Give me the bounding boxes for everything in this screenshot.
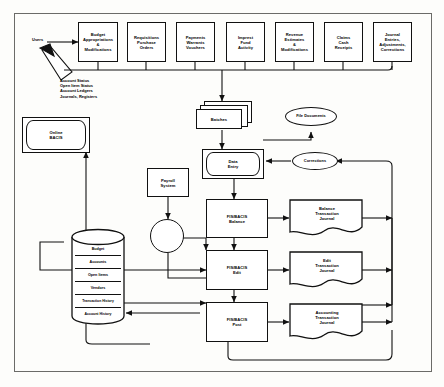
journal-balance-transaction[interactable]: Balance Transaction Journal: [289, 199, 363, 237]
db-store-transaction-history[interactable]: Transaction History: [75, 294, 121, 308]
input-box-imprest-label: Imprest Fund Activity: [237, 35, 254, 50]
input-box-revenue[interactable]: Revenue Estimates & Modifications: [275, 22, 314, 62]
data-entry-label: Data Entry: [227, 159, 240, 169]
batches-box[interactable]: Batches: [196, 109, 242, 129]
input-box-requisitions-label: Requisitions Purchase Orders: [133, 35, 160, 50]
journal-edit-transaction-label: Edit Transaction Journal: [289, 258, 365, 273]
db-store-open-items[interactable]: Open Items: [75, 268, 121, 282]
db-store-account-history[interactable]: Account History: [75, 307, 121, 320]
payroll-system-label: Payroll System: [160, 178, 177, 188]
input-box-journal-entries-label: Journal Entries, Adjustments, Correction…: [378, 32, 407, 52]
input-box-revenue-label: Revenue Estimates & Modifications: [280, 32, 309, 52]
process-fis-bacis-post-label: FIS/BACIS Post: [226, 317, 249, 327]
file-documents-node[interactable]: File Documents: [285, 107, 337, 126]
input-box-requisitions[interactable]: Requisitions Purchase Orders: [127, 22, 166, 62]
input-box-claims-label: Claims Cash Receipts: [334, 35, 353, 50]
input-box-payments-label: Payments Warrants Vouchers: [185, 35, 207, 50]
journal-accounting-transaction-label: Accounting Transaction Journal: [289, 310, 365, 325]
db-store-vendors[interactable]: Vendors: [75, 281, 121, 295]
db-store-accounts-label: Accounts: [90, 260, 107, 264]
process-fis-bacis-edit-label: FIS/BACIS Edit: [226, 265, 249, 275]
db-store-budget-label: Budget: [92, 247, 105, 251]
journal-accounting-transaction[interactable]: Accounting Transaction Journal: [289, 303, 363, 341]
input-box-budget-label: Budget Appropriations & Modifications: [82, 32, 114, 52]
journal-balance-transaction-label: Balance Transaction Journal: [289, 206, 365, 221]
corrections-label: Corrections: [303, 159, 327, 164]
db-store-accounts[interactable]: Accounts: [75, 255, 121, 269]
file-documents-label: File Documents: [295, 114, 327, 119]
online-bacis-label: Online BACIS: [48, 130, 63, 140]
db-store-vendors-label: Vendors: [91, 286, 106, 290]
input-box-imprest[interactable]: Imprest Fund Activity: [226, 22, 265, 62]
payroll-system-node[interactable]: Payroll System: [147, 168, 189, 197]
db-store-budget[interactable]: Budget: [75, 242, 121, 256]
batches-label: Batches: [210, 117, 228, 122]
input-box-journal-entries[interactable]: Journal Entries, Adjustments, Correction…: [373, 22, 412, 62]
input-box-claims[interactable]: Claims Cash Receipts: [324, 22, 363, 62]
online-outputs-note: Account Status Open Item Status Account …: [60, 78, 97, 99]
offpage-connector-circle[interactable]: [150, 219, 184, 253]
corrections-node[interactable]: Corrections: [292, 152, 338, 170]
batches-stack[interactable]: Batches: [196, 101, 252, 130]
db-store-open-items-label: Open Items: [88, 273, 108, 277]
online-bacis-node[interactable]: Online BACIS: [22, 117, 90, 153]
input-box-payments[interactable]: Payments Warrants Vouchers: [176, 22, 215, 62]
process-fis-bacis-edit[interactable]: FIS/BACIS Edit: [206, 250, 268, 290]
input-box-budget[interactable]: Budget Appropriations & Modifications: [78, 22, 118, 62]
users-label: Users: [32, 37, 43, 42]
flowchart-page: Budget Appropriations & Modifications Re…: [0, 0, 444, 387]
db-store-transaction-history-label: Transaction History: [82, 299, 114, 303]
data-entry-node[interactable]: Data Entry: [202, 149, 264, 179]
database-cylinder[interactable]: Budget Accounts Open Items Vendors Trans…: [70, 228, 126, 325]
process-fis-bacis-balance-label: FIS/BACIS Balance: [226, 214, 249, 224]
journal-edit-transaction[interactable]: Edit Transaction Journal: [289, 251, 363, 289]
process-fis-bacis-post[interactable]: FIS/BACIS Post: [206, 302, 268, 342]
db-store-account-history-label: Account History: [84, 312, 111, 316]
process-fis-bacis-balance[interactable]: FIS/BACIS Balance: [206, 199, 268, 238]
